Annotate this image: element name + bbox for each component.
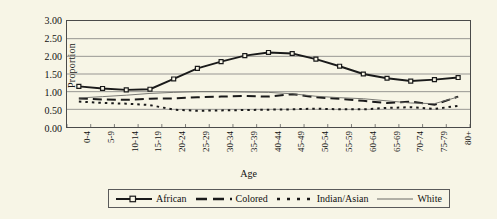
x-axis-tick-label: 5-9 — [106, 131, 116, 143]
series-marker-african — [195, 66, 199, 70]
y-axis-tick-labels: 0.000.501.001.502.002.503.00 — [22, 0, 62, 219]
series-marker-african — [172, 77, 176, 81]
x-axis-tick-label: 30-34 — [225, 131, 235, 152]
series-marker-african — [124, 88, 128, 92]
y-axis-tick-label: 1.50 — [45, 69, 63, 80]
y-axis-tick-label: 3.00 — [45, 15, 63, 26]
y-axis-tick-label: 0.00 — [45, 123, 63, 134]
plot-area — [66, 20, 471, 128]
x-axis-tick-label: 55-59 — [344, 131, 354, 152]
series-marker-african — [101, 87, 105, 91]
legend-item-label: Colored — [236, 193, 268, 204]
legend-item[interactable]: White — [377, 193, 441, 204]
legend-key-icon — [277, 194, 313, 204]
series-marker-african — [148, 87, 152, 91]
series-marker-african — [290, 52, 294, 56]
x-axis-tick-label: 80+ — [463, 131, 473, 145]
y-axis-tick-label: 2.50 — [45, 33, 63, 44]
x-axis-tick-label: 35-39 — [249, 131, 259, 152]
series-marker-african — [314, 57, 318, 61]
series-marker-african — [338, 64, 342, 68]
series-marker-african — [456, 76, 460, 80]
x-axis-tick-label: 15-19 — [153, 131, 163, 152]
chart-legend: AfricanColoredIndian/AsianWhite — [108, 189, 450, 208]
legend-key-icon — [196, 194, 232, 204]
x-axis-title-label: Age — [240, 168, 257, 179]
series-marker-african — [243, 54, 247, 58]
legend-item[interactable]: African — [116, 193, 187, 204]
series-marker-african — [219, 60, 223, 64]
x-axis-tick-label: 20-24 — [177, 131, 187, 152]
series-line-african — [79, 52, 458, 89]
series-marker-african — [267, 50, 271, 54]
y-axis-tick-label: 2.00 — [45, 51, 63, 62]
legend-key-icon — [377, 194, 413, 204]
legend-item[interactable]: Colored — [196, 193, 268, 204]
y-axis-tick-label: 1.00 — [45, 87, 63, 98]
series-marker-african — [385, 76, 389, 80]
series-marker-african — [361, 72, 365, 76]
plot-svg — [67, 21, 470, 127]
chart-figure: Proportion 0.000.501.001.502.002.503.00 … — [0, 0, 497, 219]
legend-item-label: White — [417, 193, 441, 204]
x-axis-tick-label: 25-29 — [201, 131, 211, 152]
series-marker-african — [432, 78, 436, 82]
legend-key-icon — [116, 194, 152, 204]
x-axis-tick-label: 45-49 — [296, 131, 306, 152]
x-axis-tick-label: 65-69 — [392, 131, 402, 152]
x-axis-tick-label: 75-79 — [439, 131, 449, 152]
legend-item-label: African — [156, 193, 187, 204]
x-axis-tick-label: 50-54 — [320, 131, 330, 152]
x-axis-tick-label: 0-4 — [82, 131, 92, 143]
x-axis-tick-label: 60-64 — [368, 131, 378, 152]
legend-item-label: Indian/Asian — [317, 193, 369, 204]
series-line-white — [79, 92, 458, 104]
series-marker-african — [409, 79, 413, 83]
x-axis-tick-label: 70-74 — [415, 131, 425, 152]
series-marker-african — [77, 84, 81, 88]
legend-item[interactable]: Indian/Asian — [277, 193, 369, 204]
y-axis-tick-label: 0.50 — [45, 105, 63, 116]
x-axis-title: Age — [0, 168, 497, 179]
series-line-colored — [79, 94, 458, 105]
x-axis-tick-label: 40-44 — [273, 131, 283, 152]
x-axis-tick-label: 10-14 — [130, 131, 140, 152]
